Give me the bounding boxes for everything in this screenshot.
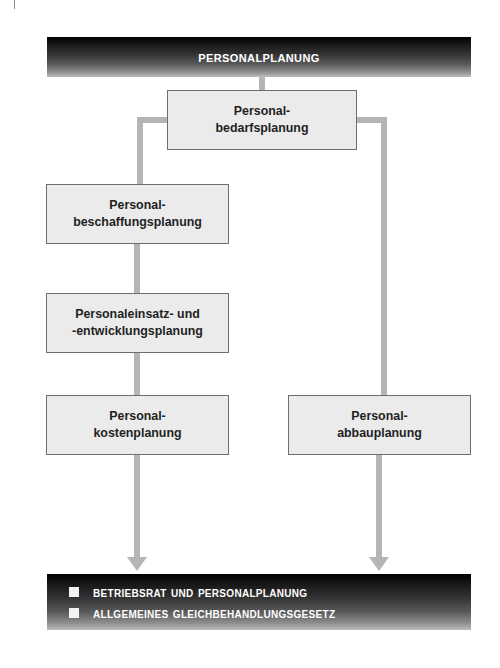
footer-bar-item: Betriebsrat und Personalplanung bbox=[69, 581, 471, 602]
arrow-right-shaft bbox=[376, 454, 382, 558]
node-personalkostenplanung: Personal- kostenplanung bbox=[46, 395, 229, 455]
header-bar: Personalplanung bbox=[47, 37, 471, 77]
arrow-left-head bbox=[127, 557, 147, 571]
running-head-rule bbox=[14, 0, 15, 9]
node-personaleinsatzplanung-label: Personaleinsatz- und -entwicklungsplanun… bbox=[72, 306, 203, 340]
node-personaleinsatzplanung: Personaleinsatz- und -entwicklungsplanun… bbox=[46, 293, 229, 353]
diagram-page: 1.1 PREVIEW Personalplanung Personal- be… bbox=[0, 0, 500, 668]
footer-bar-item-label: Allgemeines Gleichbehandlungsgesetz bbox=[93, 605, 335, 621]
connector-einsatz-to-kosten bbox=[134, 352, 140, 396]
node-personalbedarfsplanung: Personal- bedarfsplanung bbox=[167, 90, 357, 150]
square-bullet-icon bbox=[69, 587, 79, 597]
connector-right-spine bbox=[381, 117, 387, 396]
node-personalabbauplanung-label: Personal- abbauplanung bbox=[337, 408, 422, 442]
node-personalbedarfsplanung-label: Personal- bedarfsplanung bbox=[216, 103, 309, 137]
node-personalbeschaffungsplanung: Personal- beschaffungsplanung bbox=[46, 184, 229, 244]
node-personalabbauplanung: Personal- abbauplanung bbox=[288, 395, 471, 455]
square-bullet-icon bbox=[69, 608, 79, 618]
footer-bar: Betriebsrat und Personalplanung Allgemei… bbox=[47, 574, 471, 630]
footer-bar-item-label: Betriebsrat und Personalplanung bbox=[93, 584, 307, 600]
header-bar-title: Personalplanung bbox=[198, 48, 320, 66]
connector-left-spine bbox=[137, 117, 143, 189]
node-personalkostenplanung-label: Personal- kostenplanung bbox=[93, 408, 181, 442]
footer-bar-item: Allgemeines Gleichbehandlungsgesetz bbox=[69, 602, 471, 623]
connector-root-to-bedarf bbox=[259, 77, 265, 91]
arrow-left-shaft bbox=[134, 454, 140, 558]
node-personalbeschaffungsplanung-label: Personal- beschaffungsplanung bbox=[73, 197, 202, 231]
connector-beschaffung-to-einsatz bbox=[134, 243, 140, 294]
arrow-right-head bbox=[369, 557, 389, 571]
